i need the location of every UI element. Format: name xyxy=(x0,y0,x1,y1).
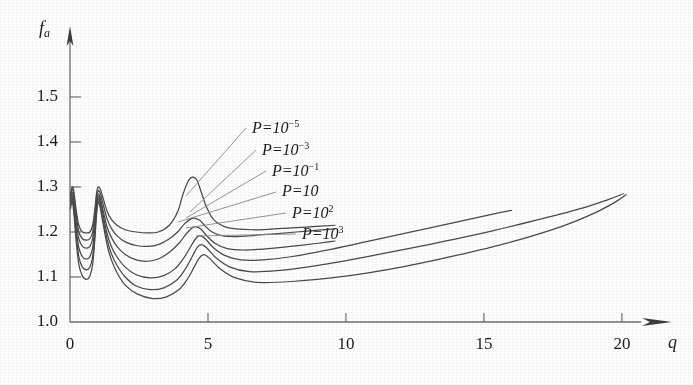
series-annotation-label: P=10 xyxy=(282,182,319,200)
chart-canvas xyxy=(0,0,693,385)
chart-figure: 1.01.11.21.31.41.505101520faqP=10−5P=10−… xyxy=(0,0,693,385)
series-annotation-label: P=103 xyxy=(302,224,344,243)
y-axis-label: fa xyxy=(39,18,50,41)
x-axis-arrow xyxy=(642,318,672,326)
series-annotation-label: P=10−5 xyxy=(252,118,299,137)
x-tick-label: 20 xyxy=(597,334,647,354)
series-annotation-text: P=10 xyxy=(292,204,329,221)
series-annotation-text: P=10 xyxy=(262,141,299,158)
annotation-leader-line xyxy=(186,128,246,196)
series-annotation-exponent: −1 xyxy=(309,161,320,172)
y-tick-label: 1.5 xyxy=(6,86,58,106)
annotation-leader-line xyxy=(178,192,276,222)
curves-group xyxy=(71,177,626,299)
series-annotation-label: P=102 xyxy=(292,203,334,222)
x-tick-label: 10 xyxy=(321,334,371,354)
series-annotation-text: P=10 xyxy=(272,162,309,179)
y-tick-label: 1.4 xyxy=(6,131,58,151)
series-annotation-text: P=10 xyxy=(302,225,339,242)
annotation-leader-line xyxy=(190,150,256,212)
y-tick-label: 1.1 xyxy=(6,266,58,286)
x-tick-label: 5 xyxy=(183,334,233,354)
x-axis-label: q xyxy=(668,332,677,353)
y-tick-label: 1.3 xyxy=(6,176,58,196)
x-tick-label: 0 xyxy=(45,334,95,354)
y-axis-label-subscript: a xyxy=(44,26,50,40)
y-tick-label: 1.2 xyxy=(6,221,58,241)
series-curve xyxy=(71,194,624,290)
series-annotation-label: P=10−3 xyxy=(262,140,309,159)
series-annotation-text: P=10 xyxy=(252,119,289,136)
series-annotation-exponent: 2 xyxy=(329,203,334,214)
axes-group xyxy=(67,26,672,326)
y-tick-label: 1.0 xyxy=(6,311,58,331)
series-annotation-exponent: 3 xyxy=(339,224,344,235)
series-curve xyxy=(71,195,626,299)
series-annotation-exponent: −3 xyxy=(299,140,310,151)
series-annotation-label: P=10−1 xyxy=(272,161,319,180)
x-tick-label: 15 xyxy=(459,334,509,354)
series-annotation-exponent: −5 xyxy=(289,118,300,129)
series-annotation-text: P=10 xyxy=(282,182,319,199)
